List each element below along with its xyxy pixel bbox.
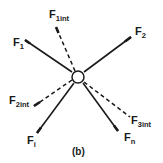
label-f3int: F3int	[131, 114, 152, 129]
figure-caption: (b)	[72, 146, 85, 157]
label-f2int: F2int	[9, 94, 30, 109]
label-fi: Fi	[27, 134, 36, 149]
arrowhead-fn	[114, 126, 118, 132]
arrowhead-f1int	[56, 27, 59, 33]
force-line-f2	[84, 37, 131, 72]
force-line-f1	[25, 40, 72, 72]
arrowhead-f2int	[34, 102, 40, 106]
label-f2: F2	[135, 25, 146, 40]
arrowhead-fi	[37, 128, 41, 134]
force-diagram: F1 F1int F2 F2int Fi Fn F3int (b)	[0, 0, 163, 163]
arrowhead-f1	[25, 40, 30, 44]
force-line-f1int	[56, 27, 75, 71]
label-f1int: F1int	[49, 8, 70, 23]
arrowhead-f2	[125, 37, 131, 42]
label-fn: Fn	[124, 131, 136, 146]
node-circle	[72, 71, 84, 83]
force-line-fi	[37, 83, 74, 133]
force-line-f3int	[84, 82, 130, 117]
force-line-fn	[83, 83, 118, 131]
label-f1: F1	[13, 36, 24, 51]
